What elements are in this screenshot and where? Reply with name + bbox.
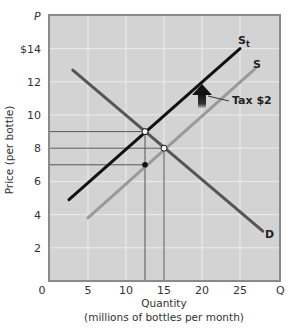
tax-label: Tax $2 (232, 94, 272, 107)
y-axis-title: Price (per bottle) (3, 106, 15, 195)
x-tick-label: 10 (119, 284, 133, 297)
supply-demand-chart: Tax $2 St S D P Q 24681012$14 0510152025… (0, 0, 291, 329)
y-tick-label: 10 (27, 109, 41, 122)
x-tick-label: 5 (85, 284, 92, 297)
x-axis-subtitle: (millions of bottles per month) (84, 311, 244, 323)
y-axis-symbol: P (34, 10, 41, 23)
open-point-marker (142, 129, 148, 135)
y-tick-label: 4 (34, 209, 41, 222)
y-tick-label: $14 (20, 43, 41, 56)
d-curve-label: D (265, 228, 274, 241)
open-point-marker (161, 145, 167, 151)
y-tick-label: 2 (34, 242, 41, 255)
y-tick-label: 8 (34, 142, 41, 155)
s-curve-label: S (253, 58, 261, 71)
x-tick-label: 25 (233, 284, 247, 297)
y-tick-label: 6 (34, 175, 41, 188)
y-tick-label: 12 (27, 76, 41, 89)
x-tick-label: 0 (39, 284, 46, 297)
x-tick-label: 20 (195, 284, 209, 297)
x-tick-label: 15 (157, 284, 171, 297)
filled-point-marker (142, 162, 148, 168)
x-axis-title: Quantity (141, 297, 186, 309)
y-tick-labels: 24681012$14 (20, 43, 41, 255)
x-axis-symbol: Q (276, 284, 285, 297)
st-label-sub: t (246, 40, 250, 49)
x-tick-labels: 0510152025 (39, 284, 248, 297)
st-label-main: S (238, 34, 246, 47)
